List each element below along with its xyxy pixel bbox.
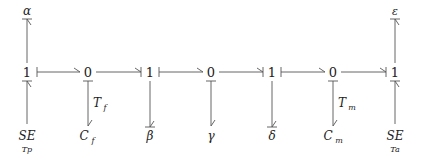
- bond-se-tp-j1: [22, 81, 32, 124]
- bond-j4-j5: [219, 67, 263, 77]
- bond-j5-delta: [267, 81, 277, 127]
- top-elements: α ε: [23, 4, 398, 18]
- label-epsilon: ε: [392, 5, 398, 18]
- label-beta: β: [146, 129, 154, 143]
- junction-0: 0: [207, 65, 215, 80]
- label-se-sub-tp: Tp: [22, 145, 32, 154]
- bond-se-ta-j7: [390, 81, 400, 124]
- label-c-sub-f: f: [91, 136, 97, 145]
- label-c: C: [323, 129, 332, 143]
- bond-label-t: T: [338, 96, 347, 110]
- junction-1: 1: [146, 65, 154, 80]
- junction-1: 1: [391, 65, 399, 80]
- junction-0: 0: [84, 65, 92, 80]
- label-c: C: [79, 129, 88, 143]
- label-se-sub-ta: Ta: [390, 145, 400, 154]
- junction-1: 1: [23, 65, 31, 80]
- label-se: SE: [19, 129, 36, 143]
- bond-label-t: T: [93, 96, 102, 110]
- junction-0: 0: [329, 65, 337, 80]
- junctions: 1 0 1 0 1 0 1: [23, 65, 399, 80]
- bond-j1-j2: [37, 67, 80, 77]
- label-c-sub-m: m: [335, 136, 343, 145]
- bond-j1-alpha: [22, 19, 32, 63]
- bond-graph-diagram: 1 0 1 0 1 0 1 α ε SE Tp C f T f β γ δ C …: [0, 0, 421, 161]
- bond-label-t-sub-m: m: [348, 103, 356, 112]
- bond-j7-epsilon: [390, 19, 400, 63]
- bond-label-t-sub-f: f: [103, 103, 109, 112]
- label-delta: δ: [268, 129, 275, 143]
- bond-j2-j3: [96, 67, 141, 77]
- bond-j4-gamma: [206, 81, 216, 126]
- bond-j3-j4: [159, 67, 203, 77]
- label-alpha: α: [23, 4, 31, 18]
- bond-j2-cf: [83, 81, 93, 126]
- bond-j5-j6: [281, 67, 325, 77]
- bond-j3-beta: [145, 81, 155, 127]
- bond-j6-cm: [328, 81, 338, 126]
- label-se: SE: [387, 129, 404, 143]
- junction-1: 1: [268, 65, 276, 80]
- label-gamma: γ: [207, 129, 215, 143]
- bond-j6-j7: [341, 67, 386, 77]
